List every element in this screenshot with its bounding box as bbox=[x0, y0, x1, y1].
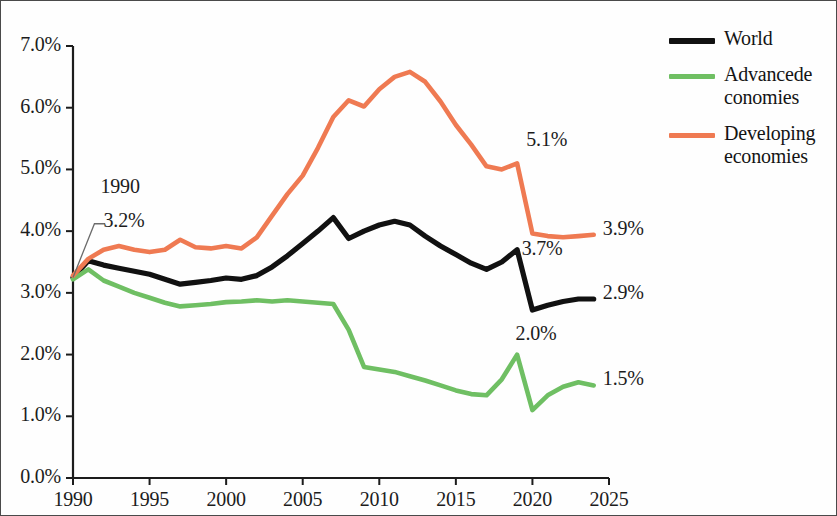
legend-item-label: Advancede conomies bbox=[724, 63, 834, 108]
y-axis-tick-label: 0.0% bbox=[0, 465, 61, 488]
annotation-start-value: 3.2% bbox=[104, 209, 145, 232]
legend-color-swatch-icon bbox=[669, 38, 715, 44]
label-world-2019: 3.7% bbox=[522, 237, 563, 260]
legend-item-label: Developing economies bbox=[724, 122, 834, 167]
y-axis-tick-label: 3.0% bbox=[0, 280, 61, 303]
label-developing-2024: 3.9% bbox=[603, 217, 644, 240]
x-axis-tick-label: 2015 bbox=[421, 488, 491, 511]
y-axis-tick-label: 1.0% bbox=[0, 403, 61, 426]
x-axis-tick-label: 2000 bbox=[191, 488, 261, 511]
y-axis-tick-label: 6.0% bbox=[0, 95, 61, 118]
chart-legend: WorldAdvancede conomiesDeveloping econom… bbox=[669, 27, 834, 181]
x-axis-tick-label: 2025 bbox=[574, 488, 644, 511]
legend-color-swatch-icon bbox=[669, 133, 715, 138]
annotation-start-year: 1990 bbox=[101, 175, 140, 198]
y-axis-tick-label: 5.0% bbox=[0, 156, 61, 179]
legend-item-1[interactable]: World bbox=[669, 27, 834, 49]
label-developing-2019: 5.1% bbox=[526, 128, 567, 151]
chart-figure: 0.0%1.0%2.0%3.0%4.0%5.0%6.0%7.0% 1990199… bbox=[0, 0, 837, 516]
legend-item-2[interactable]: Advancede conomies bbox=[669, 63, 834, 108]
legend-item-3[interactable]: Developing economies bbox=[669, 122, 834, 167]
chart-series bbox=[73, 72, 594, 410]
y-axis-tick-label: 4.0% bbox=[0, 218, 61, 241]
legend-item-label: World bbox=[724, 27, 773, 49]
label-world-2024: 2.9% bbox=[603, 281, 644, 304]
label-advanced-2024: 1.5% bbox=[603, 367, 644, 390]
y-axis-tick-label: 2.0% bbox=[0, 342, 61, 365]
x-axis-tick-label: 1995 bbox=[115, 488, 185, 511]
x-axis-tick-label: 2010 bbox=[344, 488, 414, 511]
label-advanced-2019: 2.0% bbox=[516, 322, 557, 345]
x-axis-tick-label: 2020 bbox=[497, 488, 567, 511]
x-axis-tick-label: 1990 bbox=[38, 488, 108, 511]
legend-color-swatch-icon bbox=[669, 74, 715, 79]
x-axis-tick-label: 2005 bbox=[268, 488, 338, 511]
y-axis-tick-label: 7.0% bbox=[0, 33, 61, 56]
